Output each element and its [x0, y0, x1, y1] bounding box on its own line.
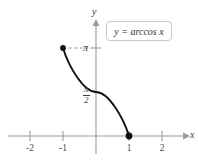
equation-label-text: y = arccos x [114, 26, 163, 37]
pi-over-2-denominator: 2 [83, 96, 90, 105]
y-tick-label-pi: π [83, 43, 88, 53]
x-tick-label-2: 2 [157, 144, 167, 154]
x-axis-label: x [190, 130, 194, 140]
arccos-graph-figure: x y -2 -1 1 2 π π 2 y = arccos x [0, 0, 198, 164]
x-axis-arrow-icon [183, 133, 190, 140]
x-tick-label-1: 1 [124, 144, 134, 154]
y-axis-arrow-icon [93, 19, 100, 26]
y-label-pi-over-2: π 2 [83, 85, 90, 106]
x-tick-label-minus2: -2 [24, 144, 36, 154]
equation-label-box: y = arccos x [106, 21, 172, 41]
endpoint-left-dot [60, 45, 66, 51]
y-axis-label: y [92, 7, 96, 17]
endpoint-right-dot [126, 133, 133, 140]
pi-over-2-numerator: π [83, 85, 90, 94]
x-tick-label-minus1: -1 [57, 144, 69, 154]
